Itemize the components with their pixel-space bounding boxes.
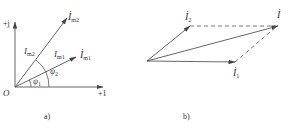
caption-a: a) — [44, 112, 51, 121]
phasor-diagram-canvas: +j +1 O İm2 İm1 Im2 Im1 ψ1 ψ2 a) İ2 İ1 İ… — [0, 0, 286, 131]
angle-psi2-label: ψ2 — [50, 67, 58, 77]
phasor-im2-label: İm2 — [67, 11, 79, 23]
phasor-i2-label: İ2 — [184, 11, 191, 23]
imag-axis-label: +j — [3, 19, 10, 28]
panel-a: +j +1 O İm2 İm1 Im2 Im1 ψ1 ψ2 a) — [3, 11, 107, 121]
origin-label: O — [3, 88, 10, 98]
real-axis-label: +1 — [98, 89, 107, 98]
phasor-im2-arrow — [15, 18, 67, 87]
phasor-sum-arrow — [147, 26, 278, 61]
phasor-i1-label: İ1 — [232, 67, 239, 79]
angle-psi1-label: ψ1 — [33, 77, 41, 87]
phasor-im1-label: İm1 — [79, 49, 91, 61]
phasor-sum-label: İ — [276, 9, 281, 20]
phasor-i2-arrow — [147, 26, 190, 61]
angle-psi1-arc — [29, 80, 31, 87]
panel-b: İ2 İ1 İ b) — [147, 9, 281, 121]
caption-b: b) — [183, 112, 190, 121]
magnitude-im1-label: Im1 — [53, 49, 65, 60]
magnitude-im2-label: Im2 — [23, 46, 35, 57]
phasor-i1-arrow — [147, 61, 235, 62]
